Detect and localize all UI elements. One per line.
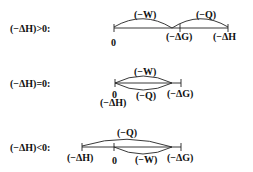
row1-label-zero: 0 — [111, 38, 116, 48]
row1-axis — [114, 19, 228, 32]
row1-label-q: (−Q) — [196, 10, 216, 20]
row3-label-zero: 0 — [112, 156, 117, 166]
row3-label-w: (−W) — [135, 155, 157, 165]
row1-condition: (−ΔH)>0: — [10, 23, 50, 34]
row1-label-w: (−W) — [134, 10, 156, 20]
row1-label-dg: (−ΔG) — [166, 32, 192, 42]
row3-label-q: (−Q) — [117, 128, 137, 138]
row2-label-dh: (−ΔH) — [100, 98, 126, 108]
row2-condition: (−ΔH)=0: — [10, 78, 50, 89]
row2-label-w: (−W) — [134, 67, 156, 77]
row3-label-dh: (−ΔH) — [67, 153, 93, 163]
row2-label-q: (−Q) — [136, 91, 156, 101]
row1-label-dh: (−ΔH — [213, 32, 236, 42]
row3-label-dg: (−ΔG) — [167, 153, 193, 163]
row2-label-dg: (−ΔG) — [167, 89, 193, 99]
row3-condition: (−ΔH)<0: — [10, 142, 50, 153]
